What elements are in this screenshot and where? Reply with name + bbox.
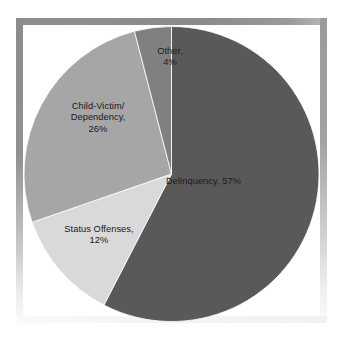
pie-label-status-offenses-line2: 12%	[40, 235, 158, 246]
pie-chart: Delinquency, 57% Child-Victim/ Dependenc…	[16, 18, 327, 323]
pie-label-child-victim-dependency: Child-Victim/ Dependency, 26%	[43, 101, 153, 135]
pie-label-other: Other, 4%	[133, 46, 207, 69]
pie-label-delinquency: Delinquency, 57%	[166, 176, 294, 187]
pie-label-delinquency-line1: Delinquency, 57%	[166, 176, 294, 187]
pie-slice-group	[24, 27, 319, 322]
pie-label-child-victim-line1: Child-Victim/	[43, 101, 153, 112]
pie-label-status-offenses: Status Offenses, 12%	[40, 224, 158, 247]
pie-label-other-line1: Other,	[133, 46, 207, 57]
pie-label-status-offenses-line1: Status Offenses,	[40, 224, 158, 235]
pie-label-child-victim-line3: 26%	[43, 124, 153, 135]
scanned-page: Delinquency, 57% Child-Victim/ Dependenc…	[0, 0, 346, 348]
pie-label-child-victim-line2: Dependency,	[43, 112, 153, 123]
pie-label-other-line2: 4%	[133, 57, 207, 68]
